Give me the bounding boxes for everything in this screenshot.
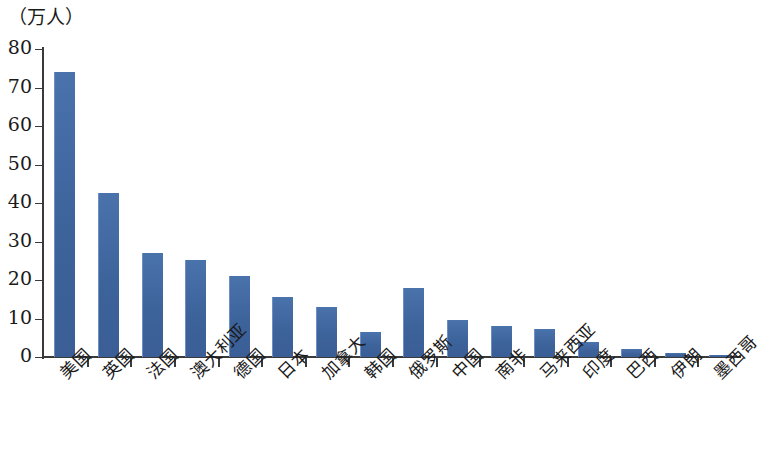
bar bbox=[54, 72, 75, 357]
y-axis-tick bbox=[35, 165, 43, 166]
y-axis-tick bbox=[35, 357, 43, 358]
y-axis-tick-label: 10 bbox=[0, 308, 32, 327]
x-axis-label: 巴西 bbox=[620, 341, 662, 383]
y-axis-unit-caption: （万人） bbox=[8, 2, 84, 29]
y-axis-tick bbox=[35, 203, 43, 204]
y-axis-tick-label: 70 bbox=[0, 77, 32, 96]
y-axis-tick-label: 80 bbox=[0, 38, 32, 57]
y-axis-tick bbox=[35, 88, 43, 89]
y-axis-tick-label: 20 bbox=[0, 269, 32, 288]
y-axis-tick-label: 30 bbox=[0, 231, 32, 250]
y-axis-tick bbox=[35, 49, 43, 50]
bar bbox=[142, 253, 163, 357]
y-axis-tick bbox=[35, 242, 43, 243]
y-axis-tick bbox=[35, 126, 43, 127]
x-axis-label: 墨西哥 bbox=[707, 329, 761, 384]
bar bbox=[98, 193, 119, 357]
y-axis-tick-label: 50 bbox=[0, 154, 32, 173]
bar bbox=[185, 260, 206, 357]
x-axis-label: 伊朗 bbox=[664, 341, 706, 383]
y-axis-tick-label: 40 bbox=[0, 192, 32, 211]
y-axis-tick-label: 60 bbox=[0, 115, 32, 134]
y-axis-tick bbox=[35, 280, 43, 281]
y-axis-tick bbox=[35, 319, 43, 320]
y-axis-tick-label: 0 bbox=[0, 346, 32, 365]
